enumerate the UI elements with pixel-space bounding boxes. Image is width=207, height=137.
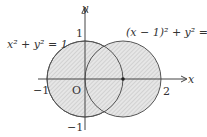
tick-x-neg1: −1 [33,84,49,97]
x-axis-label: x [188,73,195,86]
tick-x-2: 2 [163,85,170,98]
marked-point [121,77,125,81]
origin-label: O [72,84,81,97]
y-axis-label: y [81,2,89,15]
diagram-canvas: y x O −1 2 1 −1 x² + y² = 1 (x − 1)² + y… [0,0,207,137]
equation-circle1: x² + y² = 1 [7,38,68,51]
tick-y-neg1: −1 [67,121,83,134]
equation-circle2: (x − 1)² + y² = 1 [126,26,207,39]
tick-y-1: 1 [76,27,83,40]
